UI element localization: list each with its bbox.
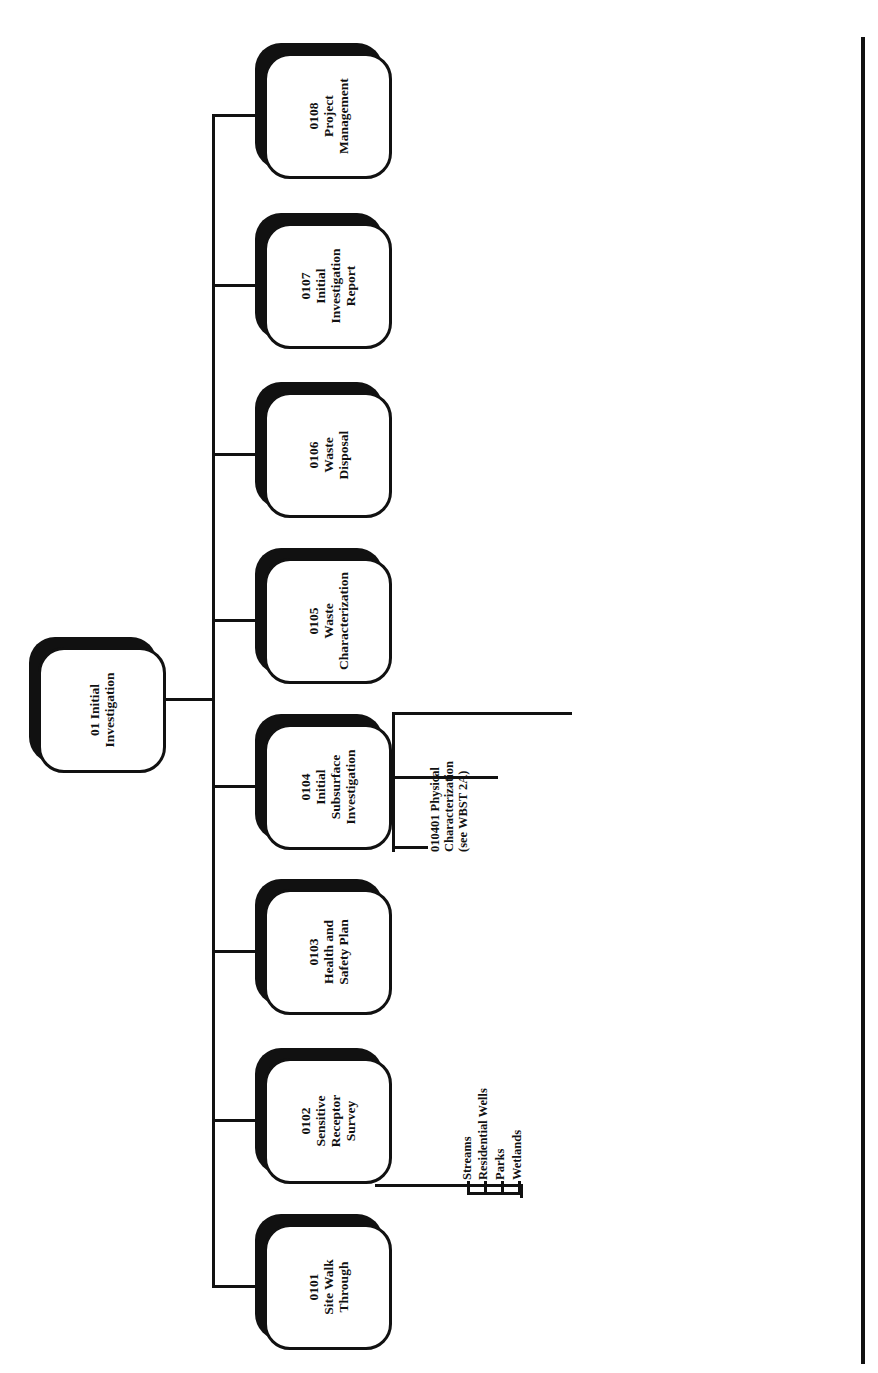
tick-0104-0 — [392, 846, 428, 849]
item-0102-2: Parks — [493, 1149, 507, 1180]
connector-0108 — [212, 114, 264, 117]
node-0108: 0108 Project Management — [264, 53, 392, 179]
tick-0104-2 — [392, 712, 572, 715]
node-0108-label: 0108 Project Management — [306, 78, 351, 154]
item-0102-3: Wetlands — [510, 1130, 524, 1180]
item-0104-0: 010401 Physical Characterization (see WB… — [428, 761, 470, 852]
right-border — [861, 37, 865, 1364]
node-0106: 0106 Waste Disposal — [264, 392, 392, 518]
bar-0102-v — [467, 1192, 521, 1195]
connector-0106 — [212, 453, 264, 456]
connector-0105 — [212, 619, 264, 622]
connector-0103 — [212, 950, 264, 953]
node-0105-label: 0105 Waste Characterization — [306, 572, 351, 670]
node-0103: 0103 Health and Safety Plan — [264, 889, 392, 1015]
node-0106-label: 0106 Waste Disposal — [306, 431, 351, 480]
connector-0104 — [212, 785, 264, 788]
node-0103-label: 0103 Health and Safety Plan — [306, 919, 351, 985]
node-0107-label: 0107 Initial Investigation Report — [298, 249, 358, 324]
connector-0107 — [212, 284, 264, 287]
item-0102-1: Residential Wells — [476, 1088, 490, 1180]
root-node-label: 01 Initial Investigation — [87, 673, 117, 748]
node-0104: 0104 Initial Subsurface Investigation — [264, 724, 392, 850]
node-0102: 0102 Sensitive Receptor Survey — [264, 1058, 392, 1184]
item-0102-0: Streams — [460, 1136, 474, 1180]
main-spine — [212, 114, 215, 1288]
wbs-diagram: 01 Initial Investigation 0101 Site Walk … — [0, 0, 878, 1373]
node-0105: 0105 Waste Characterization — [264, 558, 392, 684]
node-0101: 0101 Site Walk Through — [264, 1224, 392, 1350]
root-connector — [163, 698, 215, 701]
node-0101-label: 0101 Site Walk Through — [306, 1259, 351, 1315]
node-0102-label: 0102 Sensitive Receptor Survey — [298, 1095, 358, 1147]
connector-0102 — [212, 1119, 264, 1122]
node-0104-label: 0104 Initial Subsurface Investigation — [298, 750, 358, 825]
root-node: 01 Initial Investigation — [38, 647, 166, 773]
bracket-0104 — [392, 712, 395, 852]
connector-0101 — [212, 1285, 264, 1288]
node-0107: 0107 Initial Investigation Report — [264, 223, 392, 349]
